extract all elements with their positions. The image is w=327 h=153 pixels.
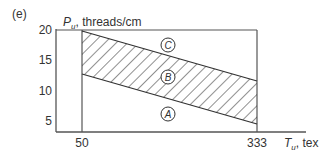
region-c-marker: C — [161, 38, 175, 52]
region-b-label: B — [165, 72, 172, 83]
y-tick-5: 5 — [45, 114, 52, 128]
y-axis-label: Pu, threads/cm — [63, 15, 142, 31]
region-c-label: C — [164, 40, 172, 51]
y-tick-20: 20 — [39, 23, 53, 37]
panel-label: (e) — [12, 7, 27, 21]
chart: (e) 20 15 10 5 50 333 Pu, threads/cm Tu,… — [0, 0, 327, 153]
region-b-marker: B — [161, 70, 175, 84]
y-tick-10: 10 — [39, 84, 53, 98]
x-axis-label: Tu, tex — [284, 136, 318, 152]
region-a-label: A — [164, 109, 172, 120]
y-tick-15: 15 — [39, 53, 53, 67]
region-a-marker: A — [161, 107, 175, 121]
x-tick-50: 50 — [75, 136, 89, 150]
x-tick-333: 333 — [247, 136, 267, 150]
